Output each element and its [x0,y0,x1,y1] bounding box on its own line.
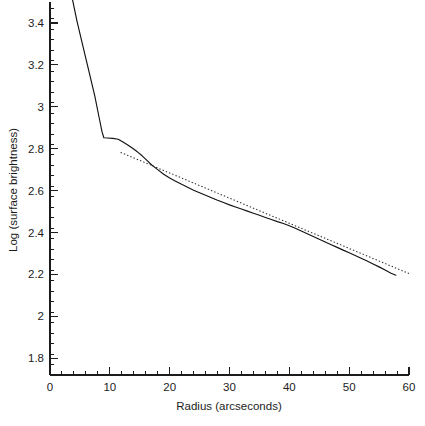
x-axis-title: Radius (arcseconds) [176,400,282,412]
y-tick-label: 2 [38,310,44,322]
x-tick-label: 50 [343,381,356,393]
x-tick-label: 20 [163,381,176,393]
x-tick-label: 60 [403,381,416,393]
y-tick-label: 3 [38,101,44,113]
y-tick-label: 1.8 [28,352,44,364]
x-tick-label: 0 [47,381,53,393]
y-axis-title: Log (surface brightness) [7,128,19,252]
y-tick-label: 2.6 [28,185,44,197]
x-axis-major-ticks [50,367,409,375]
y-tick-label: 3.4 [28,17,45,29]
y-axis-tick-labels: 1.822.22.42.62.833.23.4 [28,17,45,364]
y-tick-label: 2.2 [28,268,44,280]
observed-profile-line [72,0,396,275]
x-tick-label: 10 [103,381,116,393]
y-tick-label: 3.2 [28,59,44,71]
y-axis-major-ticks [50,23,58,358]
x-tick-label: 30 [223,381,236,393]
chart-canvas: 0102030405060 1.822.22.42.62.833.23.4 Ra… [0,0,425,426]
x-tick-label: 40 [283,381,296,393]
y-tick-label: 2.4 [28,227,45,239]
x-axis-tick-labels: 0102030405060 [47,381,416,393]
y-axis-minor-ticks [50,8,54,375]
exponential-disk-fit-line [121,152,409,273]
surface-brightness-profile-figure: 0102030405060 1.822.22.42.62.833.23.4 Ra… [0,0,425,426]
y-tick-label: 2.8 [28,143,44,155]
